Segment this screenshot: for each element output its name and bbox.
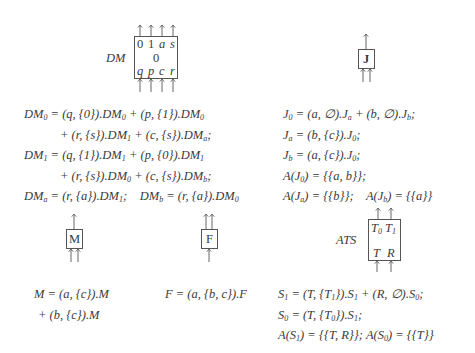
ats-equation-line-3: A(S1) = {{T, R}}; A(S0) = {{T}}: [278, 328, 434, 342]
j-equation-line-5: A(Ja) = {{b}}; A(Jb) = {{a}}: [283, 189, 432, 203]
m-equation-line-2: + (b, {c}).M: [38, 308, 99, 322]
dm-port-r: r: [170, 65, 175, 78]
dm-port-q: q: [137, 65, 143, 78]
dm-port-1: 1: [148, 38, 154, 51]
dm-equation-line-4: + (r, {s}).DM0 + (c, {s}).DMb;: [60, 169, 211, 183]
dm-component-name: DM: [106, 52, 125, 65]
m-component-box: M: [66, 229, 83, 249]
j-component-box: J: [358, 49, 375, 69]
j-equation-line-3: Jb = (a, {c}).J0;: [283, 148, 360, 162]
ats-component-box: T0 T1 T R: [368, 219, 401, 261]
ats-component-name: ATS: [336, 234, 356, 247]
ats-port-r: R: [387, 247, 395, 260]
dm-equation-line-2: + (r, {s}).DM1 + (c, {s}).DMa;: [60, 128, 211, 142]
dm-component-box: 0 1 a s 0 q p c r: [134, 36, 178, 79]
dm-port-s: s: [170, 38, 175, 51]
j-equation-line-2: Ja = (b, {c}).J0;: [283, 128, 360, 142]
ats-port-t1: T1: [385, 222, 396, 235]
ats-equation-line-2: S0 = (T, {T0}).S1;: [278, 308, 362, 322]
j-equation-line-4: A(J0) = {{a, b}};: [283, 169, 366, 183]
dm-port-p: p: [148, 65, 154, 78]
ats-equation-line-1: S1 = (T, {T1}).S1 + (R, ∅).S0;: [278, 287, 423, 301]
dm-equation-line-1: DM0 = (q, {0}).DM0 + (p, {1}).DM0: [24, 107, 204, 121]
dm-port-a: a: [159, 38, 165, 51]
m-equation-line-1: M = (a, {c}).M: [34, 287, 109, 301]
dm-equation-line-3: DM1 = (q, {1}).DM1 + (p, {0}).DM1: [24, 148, 204, 162]
f-component-box: F: [201, 229, 218, 249]
f-equation-line-1: F = (a, {b, c}).F: [165, 287, 247, 301]
f-component-name: F: [206, 233, 213, 246]
dm-equation-line-5: DMa = (r, {a}).DM1; DMb = (r, {a}).DM0: [24, 189, 239, 203]
j-equation-line-1: J0 = (a, ∅).Ja + (b, ∅).Jb;: [283, 107, 415, 121]
ats-port-t0: T0: [371, 222, 382, 235]
dm-port-c: c: [159, 65, 165, 78]
ats-port-t: T: [373, 247, 380, 260]
j-component-name: J: [363, 53, 369, 66]
m-component-name: M: [69, 233, 80, 246]
dm-port-0: 0: [137, 38, 143, 51]
